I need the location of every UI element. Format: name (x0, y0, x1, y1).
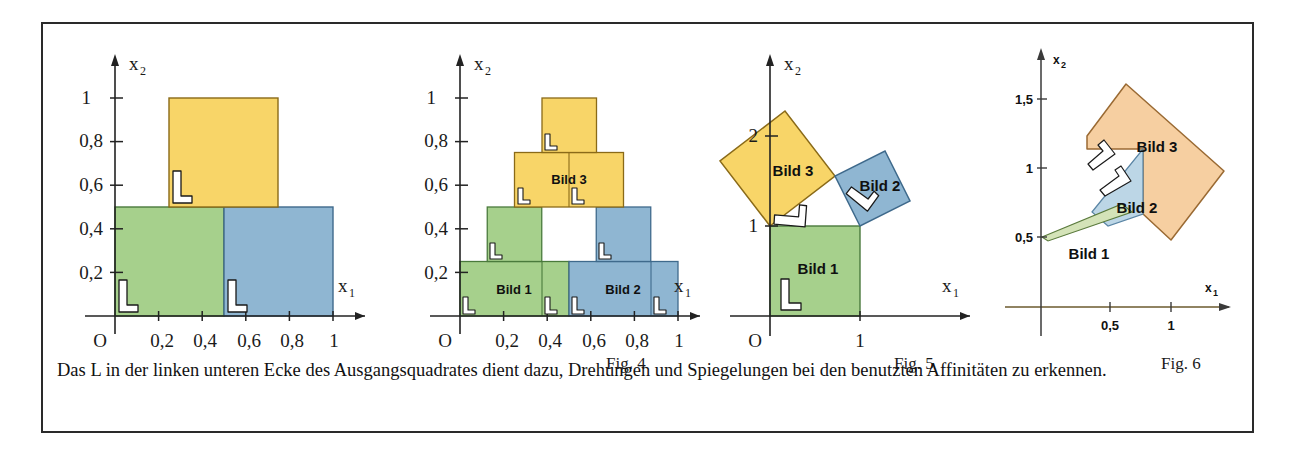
fig3-yaxis-sub: 2 (140, 64, 146, 78)
fig3-ytick-04: 0,4 (79, 218, 103, 239)
figure-fig4: Bild 1 Bild 2 Bild 3 1 0,8 0,6 0,4 0,2 0… (388, 24, 708, 354)
fig4-xtick-06: 0,6 (582, 330, 606, 351)
fig4-ytick-08: 0,8 (424, 130, 448, 151)
fig3-yellow-square (169, 98, 278, 207)
fig4-xaxis-sub: 1 (685, 286, 691, 300)
fig5-xaxis-name: x (942, 275, 952, 296)
fig5-xaxis-sub: 1 (953, 286, 959, 300)
fig5-yaxis-name: x (784, 53, 794, 74)
fig5-xtick-1: 1 (855, 330, 865, 351)
figure-page: 1 0,8 0,6 0,4 0,2 0,2 0,4 0,6 0,8 1 O x … (0, 0, 1294, 463)
figure-fig3: 1 0,8 0,6 0,4 0,2 0,2 0,4 0,6 0,8 1 O x … (43, 24, 388, 354)
fig4-shapes (460, 98, 678, 316)
fig6-bild3-label: Bild 3 (1137, 138, 1178, 155)
fig6-ytick-1: 1 (1026, 161, 1033, 176)
fig6-ytick-05: 0,5 (1015, 230, 1033, 245)
fig5-bild3-label: Bild 3 (773, 162, 814, 179)
fig3-xtick-04: 0,4 (193, 330, 217, 351)
fig3-shapes (115, 98, 333, 316)
fig4-yaxis-sub: 2 (485, 64, 491, 78)
fig6-xtick-05: 0,5 (1101, 318, 1119, 333)
fig4-xtick-1: 1 (674, 330, 684, 351)
fig5-yaxis-sub: 2 (795, 64, 801, 78)
figure-caption: Das L in der linken unteren Ecke des Aus… (43, 352, 1252, 382)
fig3-green-square (115, 207, 224, 316)
fig3-ytick-1: 1 (82, 87, 92, 108)
fig4-yaxis-name: x (474, 53, 484, 74)
fig3-xtick-1: 1 (329, 330, 339, 351)
fig4-ytick-1: 1 (427, 87, 437, 108)
fig4-bild3-label: Bild 3 (551, 172, 586, 187)
fig6-yaxis-sub: 2 (1061, 60, 1066, 70)
figure-row: 1 0,8 0,6 0,4 0,2 0,2 0,4 0,6 0,8 1 O x … (43, 24, 1252, 354)
fig6-xaxis-name: x (1205, 281, 1212, 295)
fig4-xaxis-name: x (674, 275, 684, 296)
fig6-shapes (1042, 84, 1224, 241)
fig4-xtick-08: 0,8 (625, 330, 649, 351)
fig4-ytick-06: 0,6 (424, 174, 448, 195)
fig6-xtick-1: 1 (1167, 318, 1174, 333)
fig6-bild1-label: Bild 1 (1069, 245, 1110, 262)
fig3-xtick-08: 0,8 (280, 330, 304, 351)
fig6-ytick-15: 1,5 (1015, 92, 1033, 107)
fig5-bild2-label: Bild 2 (860, 177, 901, 194)
fig5-bild1-label: Bild 1 (798, 260, 839, 277)
fig4-xtick-04: 0,4 (538, 330, 562, 351)
fig4-ytick-04: 0,4 (424, 218, 448, 239)
fig4-bild1-label: Bild 1 (496, 282, 531, 297)
fig4-bild2-label: Bild 2 (605, 282, 640, 297)
fig5-ytick-1: 1 (749, 215, 759, 236)
fig3-ytick-06: 0,6 (79, 174, 103, 195)
fig4-origin-label: O (438, 330, 452, 351)
fig6-xaxis-sub: 1 (1213, 288, 1218, 298)
fig4-svg: Bild 1 Bild 2 Bild 3 1 0,8 0,6 0,4 0,2 0… (388, 24, 708, 354)
fig5-origin-label: O (748, 330, 762, 351)
fig4-xtick-02: 0,2 (495, 330, 519, 351)
fig5-ytick-2: 2 (749, 125, 759, 146)
figure-fig6: Bild 3 Bild 2 Bild 1 0,5 1 1,5 0,5 1 x 1… (991, 24, 1254, 354)
figure-frame: 1 0,8 0,6 0,4 0,2 0,2 0,4 0,6 0,8 1 O x … (41, 22, 1254, 433)
fig3-origin-label: O (93, 330, 107, 351)
fig3-blue-square (224, 207, 333, 316)
fig3-svg: 1 0,8 0,6 0,4 0,2 0,2 0,4 0,6 0,8 1 O x … (43, 24, 388, 354)
fig6-svg: Bild 3 Bild 2 Bild 1 0,5 1 1,5 0,5 1 x 1… (991, 24, 1254, 354)
fig5-svg: Bild 1 Bild 2 Bild 3 1 2 1 O x 1 x 2 (708, 24, 991, 354)
fig3-yaxis-name: x (129, 53, 139, 74)
fig3-ytick-08: 0,8 (79, 130, 103, 151)
fig4-ytick-02: 0,2 (424, 262, 448, 283)
fig3-xaxis-sub: 1 (349, 286, 355, 300)
fig3-xtick-06: 0,6 (237, 330, 261, 351)
fig3-ytick-02: 0,2 (79, 262, 103, 283)
fig3-xtick-02: 0,2 (150, 330, 174, 351)
fig6-bild2-label: Bild 2 (1117, 199, 1158, 216)
figure-fig5: Bild 1 Bild 2 Bild 3 1 2 1 O x 1 x 2 Fig… (708, 24, 991, 354)
fig3-xaxis-name: x (338, 275, 348, 296)
fig6-yaxis-name: x (1053, 53, 1060, 67)
